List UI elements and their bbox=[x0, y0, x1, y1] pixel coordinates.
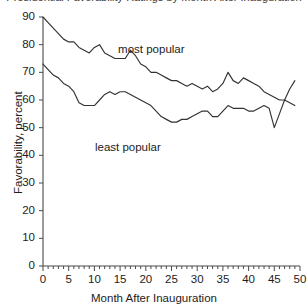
annotation-least-popular: least popular bbox=[95, 141, 161, 153]
y-tick-label-0: 0 bbox=[0, 259, 35, 271]
series-line-most-popular bbox=[43, 17, 295, 106]
annotation-most-popular: most popular bbox=[118, 43, 184, 55]
x-tick-label-50: 50 bbox=[280, 273, 308, 285]
y-axis-ticks bbox=[39, 17, 43, 266]
data-series-group bbox=[43, 17, 295, 128]
y-tick-label-20: 20 bbox=[0, 204, 35, 216]
y-tick-label-10: 10 bbox=[0, 231, 35, 243]
x-axis-ticks bbox=[43, 266, 300, 271]
y-tick-label-80: 80 bbox=[0, 38, 35, 50]
y-tick-label-90: 90 bbox=[0, 10, 35, 22]
series-line-least-popular bbox=[43, 64, 295, 128]
favorability-line-chart: Presidential Favorability Ratings by Mon… bbox=[0, 0, 308, 304]
x-axis-title: Month After Inauguration bbox=[0, 292, 308, 304]
y-axis-title: Favorability, percent bbox=[12, 91, 24, 194]
y-tick-label-70: 70 bbox=[0, 65, 35, 77]
